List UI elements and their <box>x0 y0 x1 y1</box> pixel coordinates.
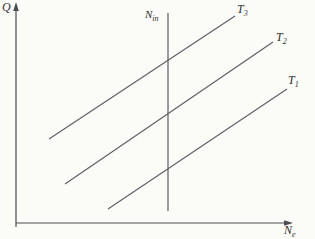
series-label-t1: T1 <box>288 74 299 89</box>
series-label-t3: T3 <box>237 3 248 18</box>
series-line-t3 <box>49 16 235 139</box>
reference-line-label: Nin <box>145 8 159 23</box>
series-line-t2 <box>65 42 273 184</box>
series-line-t1 <box>108 89 287 209</box>
diagram-canvas <box>0 0 315 239</box>
qn-characteristic-diagram: Q Nin T3 T2 T1 Ne <box>0 0 315 239</box>
x-axis-label: Ne <box>284 224 296 239</box>
y-axis-label: Q <box>2 1 11 13</box>
series-label-t2: T2 <box>276 31 287 46</box>
y-axis-arrowhead <box>13 2 19 11</box>
